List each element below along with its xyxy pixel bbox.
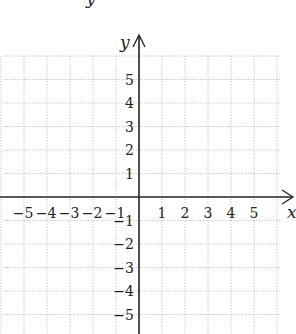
x-tick-label: 4 (227, 205, 236, 221)
x-tick-label: −2 (82, 205, 103, 221)
x-tick-label: 1 (158, 205, 167, 221)
y-tick-label: 5 (125, 72, 134, 88)
y-tick-label: −1 (113, 213, 134, 229)
y-tick-label: −2 (113, 236, 134, 252)
y-axis-label: y (119, 32, 130, 52)
x-tick-label: 2 (181, 205, 190, 221)
y-tick-label: 2 (125, 142, 134, 158)
x-axis-label: x (287, 202, 296, 222)
coordinate-plane: y y x −5−4−3−2−112345 54321−1−2−3−4−5 (0, 0, 296, 334)
x-tick-label: −3 (59, 205, 80, 221)
top-cropped-label: y (85, 0, 96, 8)
grid-lines (1, 56, 280, 334)
y-tick-label: −3 (113, 260, 134, 276)
x-tick-label: 3 (204, 205, 213, 221)
y-tick-label: 3 (125, 119, 134, 135)
y-tick-label: −4 (113, 283, 134, 299)
y-tick-label: 1 (125, 166, 134, 182)
x-tick-label: −4 (36, 205, 57, 221)
x-tick-label: 5 (250, 205, 259, 221)
y-tick-label: −5 (113, 307, 134, 323)
x-tick-labels: −5−4−3−2−112345 (13, 205, 259, 221)
x-tick-label: −5 (13, 205, 34, 221)
y-tick-label: 4 (125, 95, 134, 111)
